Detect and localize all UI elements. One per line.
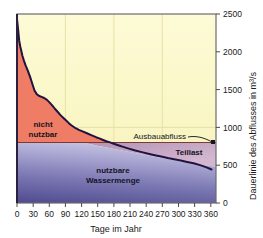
x-tick-label-150: 150 <box>91 209 105 219</box>
flow-duration-chart: 2500 2000 1500 1000 500 0 Dauerlinie des… <box>0 0 263 238</box>
x-tick-label-90: 90 <box>61 209 71 219</box>
label-nutzbare: nutzbare <box>96 166 130 175</box>
y-axis-ticks <box>216 14 220 203</box>
x-tick-label-120: 120 <box>75 209 89 219</box>
x-tick-label-60: 60 <box>45 209 55 219</box>
x-tick-label-330: 330 <box>188 209 202 219</box>
label-ausbauabfluss: Ausbauabfluss <box>134 132 186 141</box>
x-tick-label-30: 30 <box>28 209 38 219</box>
ausbauabfluss-marker <box>211 140 215 144</box>
y-tick-label-500: 500 <box>223 160 237 170</box>
x-axis-title: Tage im Jahr <box>90 224 142 234</box>
x-axis-ticks <box>17 203 211 207</box>
y-tick-label-2500: 2500 <box>223 9 242 19</box>
x-tick-label-240: 240 <box>139 209 153 219</box>
label-nicht: nicht <box>33 120 52 129</box>
label-teillast: Teillast <box>176 148 203 157</box>
x-tick-label-300: 300 <box>171 209 185 219</box>
y-tick-label-1500: 1500 <box>223 85 242 95</box>
chart-svg: 2500 2000 1500 1000 500 0 Dauerlinie des… <box>0 0 263 238</box>
x-tick-label-270: 270 <box>155 209 169 219</box>
label-nutzbar: nutzbar <box>29 130 58 139</box>
y-tick-label-2000: 2000 <box>223 47 242 57</box>
label-wassermenge: Wassermenge <box>86 176 141 185</box>
y-tick-label-0: 0 <box>223 198 228 208</box>
y-tick-label-1000: 1000 <box>223 123 242 133</box>
x-tick-label-210: 210 <box>123 209 137 219</box>
x-tick-label-360: 360 <box>204 209 218 219</box>
x-tick-label-180: 180 <box>107 209 121 219</box>
x-tick-label-0: 0 <box>15 209 20 219</box>
y-axis-title: Dauerlinie des Abflusses in m³/s <box>248 71 258 200</box>
